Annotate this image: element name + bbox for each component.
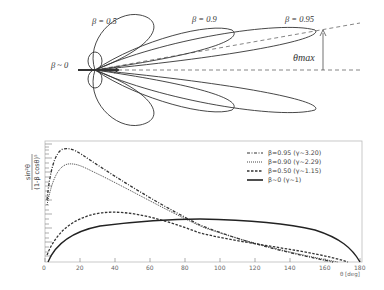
label-beta-09: β = 0.9	[191, 14, 218, 24]
legend-label: β=0.90 (γ~2.29)	[268, 158, 321, 166]
label-beta-095: β = 0.95	[284, 14, 314, 24]
y-axis-ticks	[45, 144, 52, 256]
x-axis-ticks	[45, 258, 360, 262]
series-beta-095	[47, 149, 333, 262]
svg-text:(1-β cosθ)⁵: (1-β cosθ)⁵	[33, 154, 41, 190]
y-axis-label: sin²θ (1-β cosθ)⁵	[24, 154, 41, 190]
x-tick: 0	[42, 264, 46, 271]
x-tick: 40	[111, 264, 119, 271]
legend: β=0.95 (γ~3.20) β=0.90 (γ~2.29) β=0.50 (…	[247, 149, 321, 184]
label-beta-05: β = 0.5	[91, 16, 117, 26]
label-beta-0: β ~ 0	[50, 60, 69, 70]
legend-label: β~0 (γ~1)	[268, 176, 301, 184]
x-tick: 160	[319, 264, 331, 271]
x-tick: 140	[284, 264, 296, 271]
x-tick: 60	[146, 264, 154, 271]
x-tick: 120	[249, 264, 261, 271]
svg-text:sin²θ: sin²θ	[24, 164, 32, 180]
chart: 0 20 40 60 80 100 120 140 160 180 θ [deg…	[24, 141, 366, 278]
x-tick: 20	[76, 264, 84, 271]
series-beta-0	[48, 219, 360, 262]
x-tick: 180	[354, 264, 366, 271]
x-axis-label: θ [deg]	[340, 271, 360, 278]
x-tick: 80	[181, 264, 189, 271]
label-theta-max: θmax	[293, 52, 315, 63]
legend-label: β=0.95 (γ~3.20)	[268, 149, 321, 157]
polar-diagram	[78, 14, 360, 125]
legend-label: β=0.50 (γ~1.15)	[268, 167, 321, 175]
x-tick: 100	[214, 264, 226, 271]
figure: β ~ 0 β = 0.5 β = 0.9 β = 0.95 θmax 0 20…	[0, 0, 384, 290]
